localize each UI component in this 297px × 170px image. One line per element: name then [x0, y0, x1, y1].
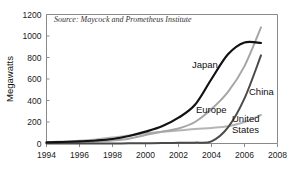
y-axis-tick-labels: 020040060080010001200	[23, 10, 42, 149]
x-tick-label: 2008	[268, 150, 287, 160]
y-tick-label: 200	[27, 117, 41, 127]
solar-pv-production-line-chart: 020040060080010001200 199419961998200020…	[0, 0, 297, 170]
y-tick-label: 0	[37, 139, 42, 149]
series-label-united: United	[232, 113, 259, 124]
chart-container: 020040060080010001200 199419961998200020…	[0, 0, 297, 170]
series-label-europe: Europe	[196, 104, 227, 115]
y-axis-title: Megawatts	[4, 56, 15, 102]
x-tick-label: 2000	[136, 150, 155, 160]
y-tick-label: 600	[27, 74, 41, 84]
x-tick-label: 1994	[37, 150, 56, 160]
series-label-states: States	[232, 124, 259, 135]
source-note: Source: Maycock and Prometheus Institute	[54, 15, 192, 24]
y-tick-label: 400	[27, 96, 41, 106]
y-tick-label: 1000	[23, 31, 42, 41]
x-tick-label: 1996	[70, 150, 89, 160]
x-tick-label: 2006	[235, 150, 254, 160]
series-layer	[47, 27, 262, 143]
y-tick-label: 1200	[23, 10, 42, 20]
y-tick-label: 800	[27, 53, 41, 63]
x-tick-label: 2002	[169, 150, 188, 160]
x-tick-label: 2004	[202, 150, 221, 160]
series-label-china: China	[249, 86, 275, 97]
x-axis-tick-labels: 19941996199820002002200420062008	[37, 150, 287, 160]
x-tick-label: 1998	[103, 150, 122, 160]
series-label-japan: Japan	[192, 59, 218, 70]
series-annotations: JapanEuropeChinaUnitedStates	[192, 59, 275, 135]
